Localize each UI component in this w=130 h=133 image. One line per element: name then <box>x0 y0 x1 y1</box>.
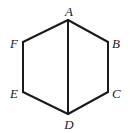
vertex-label-f: F <box>9 36 19 51</box>
vertex-label-e: E <box>9 86 18 101</box>
edge-ab <box>68 20 108 42</box>
vertex-label-c: C <box>112 86 121 101</box>
vertex-label-a: A <box>64 4 73 19</box>
vertex-label-d: D <box>63 117 74 132</box>
hexagon-diagram: ABCDEF <box>0 0 130 133</box>
edge-fa <box>23 20 68 42</box>
edge-de <box>23 92 68 114</box>
edge-cd <box>68 92 108 114</box>
vertex-label-b: B <box>112 36 120 51</box>
hexagon-edges <box>23 20 108 114</box>
